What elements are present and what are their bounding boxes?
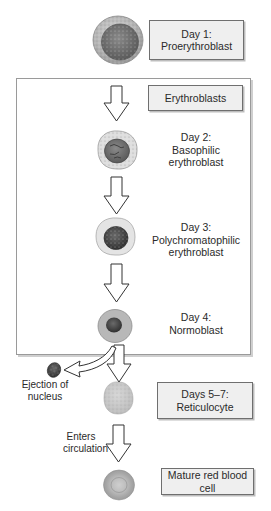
down-arrow-icon (104, 177, 129, 214)
curved-ejection-arrow-icon (64, 346, 116, 377)
ejected-nucleus-icon (45, 360, 63, 379)
diagram-graphics (0, 0, 271, 511)
down-arrow-icon (104, 264, 129, 302)
reticulocyte-cell-icon (104, 382, 133, 414)
basophilic-erythroblast-cell-icon (98, 131, 137, 169)
mature-rbc-cell-icon (104, 470, 135, 500)
down-arrow-icon (104, 86, 129, 121)
down-arrow-icon (106, 425, 131, 462)
proerythroblast-cell-icon (93, 16, 143, 64)
normoblast-cell-icon (98, 310, 132, 343)
polychromatophilic-erythroblast-cell-icon (96, 218, 135, 255)
